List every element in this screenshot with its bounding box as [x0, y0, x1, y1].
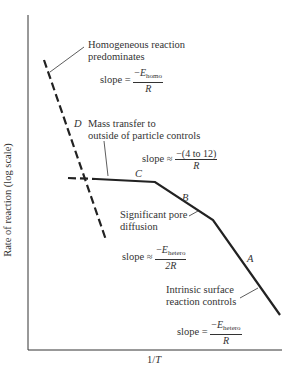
region-a-slope: slope = −Ehetero R — [177, 319, 242, 346]
x-axis-label-var: T — [155, 354, 161, 365]
region-c-desc-line2: outside of particle controls — [88, 130, 200, 142]
leader-c — [104, 141, 108, 176]
leader-b — [189, 211, 198, 216]
slope-fraction: −Ehomo R — [133, 67, 163, 94]
region-d-desc-line2: predominates — [88, 51, 185, 63]
slope-denominator: R — [133, 83, 163, 94]
x-axis-label-prefix: 1/ — [147, 354, 155, 365]
slope-denominator: 2R — [155, 260, 186, 271]
region-a-desc-line1: Intrinsic surface — [166, 284, 236, 296]
slope-fraction: −Ehetero 2R — [155, 244, 186, 271]
slope-denominator: R — [210, 335, 241, 346]
region-d-desc-line1: Homogeneous reaction — [88, 39, 185, 51]
sub: hetero — [223, 324, 241, 332]
slope-prefix: slope = — [100, 74, 131, 85]
region-d-letter: D — [74, 118, 82, 130]
region-c-desc-line1: Mass transfer to — [88, 118, 200, 130]
slope-fraction: −Ehetero R — [210, 319, 241, 346]
x-axis-label: 1/T — [147, 354, 161, 366]
slope-numerator: −Ehetero — [210, 319, 241, 335]
slope-numerator: −Ehetero — [155, 244, 186, 260]
sub: homo — [146, 72, 162, 80]
region-a-description: Intrinsic surface reaction controls — [166, 284, 236, 308]
region-c-letter: C — [135, 168, 142, 180]
region-b-desc-line2: diffusion — [120, 221, 187, 233]
leader-d — [50, 47, 84, 72]
region-b-slope: slope ≈ −Ehetero 2R — [122, 244, 186, 271]
region-c-description: Mass transfer to outside of particle con… — [88, 118, 200, 142]
region-b-desc-line1: Significant pore — [120, 209, 187, 221]
slope-numerator: −Ehomo — [133, 67, 163, 83]
leader-a — [240, 288, 258, 298]
sub: hetero — [168, 249, 186, 257]
slope-fraction: −(4 to 12) R — [175, 148, 217, 171]
slope-prefix: slope = — [177, 326, 208, 337]
region-a-desc-line2: reaction controls — [166, 296, 236, 308]
region-d-description: Homogeneous reaction predominates — [88, 39, 185, 63]
slope-prefix: slope ≈ — [122, 251, 153, 262]
curve-segment-c-extension — [68, 178, 96, 179]
curve-segment-d — [44, 60, 106, 240]
y-axis-label: Rate of reaction (log scale) — [2, 143, 13, 257]
slope-numerator: −(4 to 12) — [175, 148, 217, 160]
region-b-description: Significant pore diffusion — [120, 209, 187, 233]
region-b-letter: B — [182, 192, 188, 204]
region-d-slope: slope = −Ehomo R — [100, 67, 163, 94]
slope-denominator: R — [175, 160, 217, 171]
region-a-letter: A — [247, 253, 253, 265]
slope-prefix: slope ≈ — [142, 153, 173, 164]
region-c-slope: slope ≈ −(4 to 12) R — [142, 148, 217, 171]
